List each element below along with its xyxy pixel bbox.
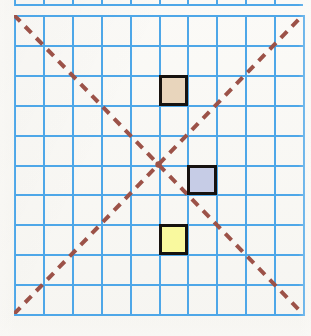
grid-line-horizontal-6 [14,194,305,196]
yellow-square-fill [162,227,186,252]
grid-line-horizontal-9 [14,284,305,286]
grid-line-horizontal-0 [14,15,305,17]
top-partial-grid-strip [14,0,303,6]
grid-line-horizontal-10 [14,314,305,316]
grid-line-horizontal-1 [14,45,305,47]
grid-line-horizontal-4 [14,135,305,137]
blue-square-fill [190,168,214,193]
grid-diagram [14,15,303,314]
top-strip-line-bottom [14,4,303,6]
yellow-square [159,224,189,255]
tan-square [159,75,189,106]
blue-square [187,165,217,196]
grid-line-horizontal-5 [14,165,305,167]
tan-square-fill [162,78,186,103]
